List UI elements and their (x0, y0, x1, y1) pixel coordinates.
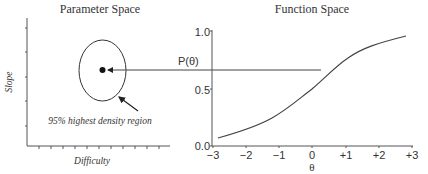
x-tick-0: 0 (309, 149, 315, 161)
x-tick-neg3: −3 (207, 149, 220, 161)
parameter-space-title: Parameter Space (60, 2, 140, 16)
function-space-title: Function Space (275, 2, 349, 16)
x-tick-neg1: −1 (273, 149, 286, 161)
difficulty-label: Difficulty (73, 156, 111, 166)
x-tick-neg2: −2 (240, 149, 253, 161)
theta-label: θ (309, 161, 314, 173)
icc-curve (218, 36, 406, 138)
x-tick-pos3: +3 (406, 149, 419, 161)
region-pointer-arrow (119, 97, 138, 111)
probability-label: P(θ) (178, 55, 199, 67)
y-tick-0.5: 0.5 (195, 84, 210, 96)
irt-diagram: Parameter Space Slope Difficulty (0, 0, 428, 174)
region-label: 95% highest density region (48, 116, 152, 126)
x-tick-pos2: +2 (373, 149, 386, 161)
function-space-panel: Function Space 1.0 0.5 0.0 −3 −2 −1 0 +1… (178, 2, 418, 173)
y-tick-1.0: 1.0 (195, 26, 210, 38)
x-tick-pos1: +1 (340, 149, 353, 161)
parameter-space-panel: Parameter Space Slope Difficulty (4, 2, 170, 166)
slope-label: Slope (4, 71, 14, 92)
point-estimate-dot (100, 67, 106, 73)
